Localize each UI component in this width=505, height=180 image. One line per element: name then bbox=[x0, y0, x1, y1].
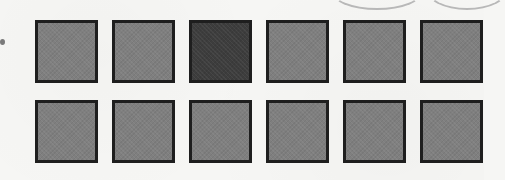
square-r2-c3 bbox=[189, 100, 252, 163]
square-r1-c5 bbox=[343, 20, 406, 83]
square-r1-c4 bbox=[266, 20, 329, 83]
square-r2-c5 bbox=[343, 100, 406, 163]
decorative-arc bbox=[330, 0, 424, 10]
square-r1-c3 bbox=[189, 20, 252, 83]
decorative-arc bbox=[425, 0, 505, 10]
square-grid bbox=[35, 20, 483, 163]
bullet-dot-icon bbox=[0, 39, 5, 45]
square-r2-c6 bbox=[420, 100, 483, 163]
square-r2-c1 bbox=[35, 100, 98, 163]
square-r1-c6 bbox=[420, 20, 483, 83]
square-r1-c2 bbox=[112, 20, 175, 83]
square-r2-c2 bbox=[112, 100, 175, 163]
square-r1-c1 bbox=[35, 20, 98, 83]
square-r2-c4 bbox=[266, 100, 329, 163]
